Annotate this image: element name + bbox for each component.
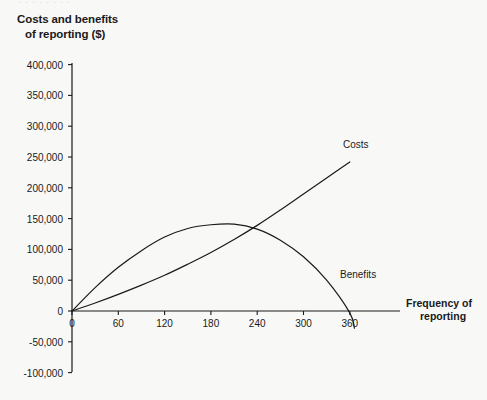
y-axis-tick-label: 250,000 xyxy=(0,152,63,163)
y-axis-tick-label: 400,000 xyxy=(0,59,63,70)
x-axis-title: Frequency of reporting xyxy=(406,297,472,323)
y-axis-tick-label: 200,000 xyxy=(0,182,63,193)
x-axis-title-line-1: Frequency of xyxy=(406,297,472,309)
y-axis-tick-label: 150,000 xyxy=(0,213,63,224)
chart-page: · · · · · · · · Costs and benefits of re… xyxy=(0,0,487,400)
chart-plot-area xyxy=(0,0,487,400)
y-axis-tick-label: 0 xyxy=(0,306,63,317)
series-label-costs: Costs xyxy=(343,139,369,150)
x-axis-title-line-2: reporting xyxy=(406,310,472,323)
x-axis-tick-label: 300 xyxy=(295,318,312,329)
series-line-benefits xyxy=(72,224,354,328)
y-axis-tick-label: 50,000 xyxy=(0,275,63,286)
x-axis-tick-label: 120 xyxy=(156,318,173,329)
series-label-benefits: Benefits xyxy=(340,269,376,280)
x-axis-tick-label: 240 xyxy=(249,318,266,329)
x-axis-tick-label: 360 xyxy=(341,318,358,329)
y-axis-tick-label: -100,000 xyxy=(0,367,63,378)
y-axis-tick-label: 350,000 xyxy=(0,90,63,101)
series-line-costs xyxy=(72,162,350,311)
y-axis-tick-label: -50,000 xyxy=(0,336,63,347)
x-axis-tick-label: 180 xyxy=(203,318,220,329)
y-axis-tick-label: 100,000 xyxy=(0,244,63,255)
y-axis-tick-label: 300,000 xyxy=(0,121,63,132)
x-axis-tick-label: 0 xyxy=(69,318,75,329)
x-axis-tick-label: 60 xyxy=(113,318,124,329)
